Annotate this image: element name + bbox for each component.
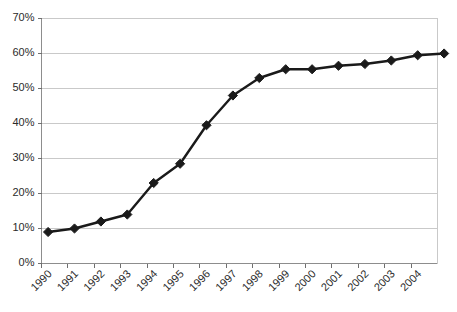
x-axis-tick-label: 2000 xyxy=(292,267,318,293)
line-chart: 0%10%20%30%40%50%60%70%19901991199219931… xyxy=(0,0,457,312)
x-axis-tick-label: 1997 xyxy=(213,267,239,293)
x-axis-labels: 1990199119921993199419951996199719981999… xyxy=(28,264,423,294)
x-axis-tick-label: 2003 xyxy=(371,267,397,293)
y-axis-tick-label: 40% xyxy=(12,116,34,128)
y-axis-tick-label: 60% xyxy=(12,46,34,58)
data-point-marker xyxy=(308,65,317,74)
data-point-marker xyxy=(281,65,290,74)
x-axis-tick-label: 1990 xyxy=(28,267,54,293)
data-point-marker xyxy=(413,51,422,60)
y-axis-tick-label: 30% xyxy=(12,151,34,163)
y-axis-tick-label: 10% xyxy=(12,221,34,233)
x-axis-tick-label: 1992 xyxy=(81,267,107,293)
data-point-marker xyxy=(334,61,343,70)
x-axis-tick-label: 1996 xyxy=(187,267,213,293)
x-axis-tick-label: 2001 xyxy=(319,267,345,293)
y-axis-tick-label: 70% xyxy=(12,11,34,23)
data-point-marker xyxy=(96,217,105,226)
x-axis-tick-label: 1991 xyxy=(55,267,81,293)
data-series-line xyxy=(48,54,444,233)
data-point-marker xyxy=(387,56,396,65)
y-axis-tick-label: 50% xyxy=(12,81,34,93)
y-axis-tick-label: 20% xyxy=(12,186,34,198)
x-axis-tick-label: 2004 xyxy=(398,267,424,293)
x-axis-tick-label: 1993 xyxy=(107,267,133,293)
data-markers-group xyxy=(44,49,449,237)
data-point-marker xyxy=(70,224,79,233)
y-axis-tick-label: 0% xyxy=(19,256,35,268)
chart-canvas: 0%10%20%30%40%50%60%70%19901991199219931… xyxy=(0,0,457,312)
data-point-marker xyxy=(440,49,449,58)
data-point-marker xyxy=(360,59,369,68)
x-axis-tick-label: 1998 xyxy=(239,267,265,293)
x-axis-tick-label: 1994 xyxy=(134,267,160,293)
x-axis-tick-label: 1999 xyxy=(266,267,292,293)
x-axis-tick-label: 2002 xyxy=(345,267,371,293)
x-axis-tick-label: 1995 xyxy=(160,267,186,293)
y-axis-labels: 0%10%20%30%40%50%60%70% xyxy=(12,11,41,268)
